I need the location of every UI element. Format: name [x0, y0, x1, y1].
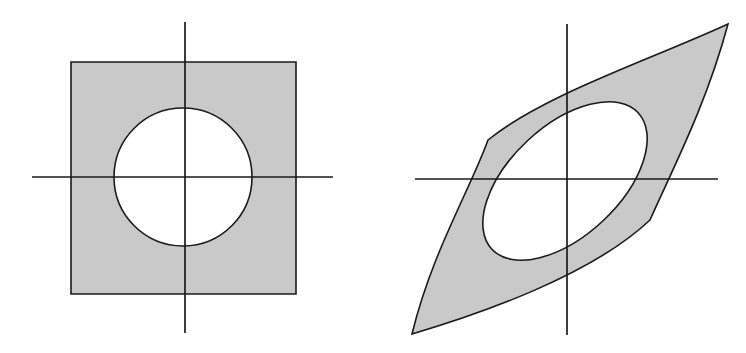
left-region-shading	[71, 62, 296, 294]
left-panel	[32, 22, 333, 333]
right-panel	[412, 24, 728, 335]
figure-svg	[0, 0, 746, 353]
figure-canvas	[0, 0, 746, 353]
